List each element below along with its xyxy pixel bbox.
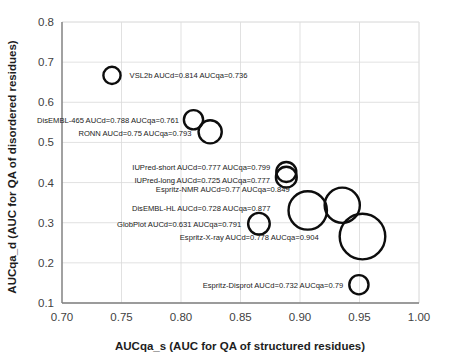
data-point-label: VSL2b AUCd=0.814 AUCqa=0.736 xyxy=(130,71,248,80)
data-point-bubble[interactable] xyxy=(289,191,327,229)
data-point-label: Espritz-Disprot AUCd=0.732 AUCqa=0.79 xyxy=(203,281,344,290)
x-tick-labels: 0.700.750.800.850.900.951.00 xyxy=(51,311,430,323)
data-point-bubble[interactable] xyxy=(199,120,222,143)
y-tick-label: 0.1 xyxy=(38,297,54,309)
y-tick-label: 0.7 xyxy=(38,56,54,68)
x-tick-label: 0.90 xyxy=(289,311,311,323)
x-tick-label: 0.70 xyxy=(51,311,73,323)
y-tick-label: 0.3 xyxy=(38,217,54,229)
x-tick-label: 0.75 xyxy=(110,311,132,323)
x-tick-label: 0.80 xyxy=(170,311,192,323)
x-tick-label: 1.00 xyxy=(408,311,430,323)
y-tick-labels: 0.10.20.30.40.50.60.70.8 xyxy=(38,16,55,309)
bubble-chart: 0.10.20.30.40.50.60.70.8 0.700.750.800.8… xyxy=(0,0,449,358)
y-tick-label: 0.5 xyxy=(38,136,54,148)
y-axis-title: AUCqa_d (AUC for QA of disordered residu… xyxy=(6,40,18,293)
y-tick-label: 0.4 xyxy=(38,177,55,189)
data-point-bubble[interactable] xyxy=(276,162,296,182)
data-point-label: IUPred-long AUCd=0.725 AUCqa=0.777 xyxy=(134,176,270,185)
x-tick-label: 0.95 xyxy=(348,311,370,323)
data-point-bubble[interactable] xyxy=(103,67,120,84)
y-tick-label: 0.6 xyxy=(38,96,54,108)
data-point-bubble[interactable] xyxy=(248,213,270,235)
y-tick-label: 0.8 xyxy=(38,16,54,28)
data-point-label: DisEMBL-465 AUCd=0.788 AUCqa=0.761 xyxy=(37,116,179,125)
data-point-label: RONN AUCd=0.75 AUCqa=0.793 xyxy=(78,129,191,138)
chart-canvas: 0.10.20.30.40.50.60.70.8 0.700.750.800.8… xyxy=(0,0,449,358)
x-tick-label: 0.85 xyxy=(229,311,251,323)
data-point-label: IUPred-short AUCd=0.777 AUCqa=0.799 xyxy=(132,163,270,172)
x-axis-title: AUCqa_s (AUC for QA of structured residu… xyxy=(115,340,365,352)
data-point-bubble[interactable] xyxy=(340,214,386,260)
data-point-label: Espritz-X-ray AUCd=0.778 AUCqa=0.904 xyxy=(180,233,319,242)
data-point-label: GlobPlot AUCd=0.631 AUCqa=0.791 xyxy=(117,220,241,229)
data-point-label: Espritz-NMR AUCd=0.77 AUCqa=0.849 xyxy=(156,185,290,194)
data-point-label: DisEMBL-HL AUCd=0.728 AUCqa=0.877 xyxy=(132,204,271,213)
data-point-bubble[interactable] xyxy=(325,188,360,223)
y-tick-label: 0.2 xyxy=(38,257,54,269)
data-point-bubble[interactable] xyxy=(349,275,368,294)
